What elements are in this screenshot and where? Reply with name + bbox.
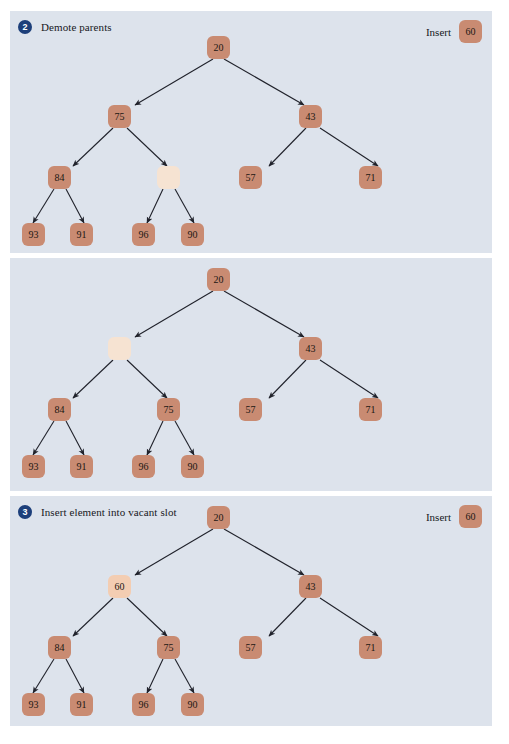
tree-node-leaf-4: 90 (181, 693, 204, 716)
tree-node-right-left: 57 (239, 166, 262, 189)
tree-node-leaf-1: 93 (22, 455, 45, 478)
tree-node-left-vacant (108, 337, 131, 360)
tree-node-right-left: 57 (239, 398, 262, 421)
tree-node-left-right: 75 (157, 636, 180, 659)
tree-node-left-left: 84 (48, 636, 71, 659)
tree-node-leaf-2: 91 (70, 223, 93, 246)
tree-node-leaf-3: 96 (132, 693, 155, 716)
tree-node-leaf-4: 90 (181, 223, 204, 246)
step-panel-3: 3 Insert element into vacant slot Insert… (10, 496, 492, 726)
tree-node-leaf-2: 91 (70, 455, 93, 478)
tree-node-leaf-2: 91 (70, 693, 93, 716)
tree-node-right: 43 (299, 105, 322, 128)
tree-node-root: 20 (207, 36, 230, 59)
tree-node-leaf-1: 93 (22, 223, 45, 246)
tree-node-left: 75 (108, 105, 131, 128)
tree-node-right: 43 (299, 337, 322, 360)
tree-node-leaf-4: 90 (181, 455, 204, 478)
tree-node-root: 20 (207, 506, 230, 529)
tree-node-left-left: 84 (48, 398, 71, 421)
step-panel-2-result: 20 43 84 75 57 71 93 91 96 90 (10, 258, 492, 491)
tree-node-leaf-3: 96 (132, 455, 155, 478)
tree-node-left-right-vacant (157, 166, 180, 189)
tree-node-leaf-3: 96 (132, 223, 155, 246)
tree-node-right-right: 71 (359, 398, 382, 421)
tree-node-leaf-1: 93 (22, 693, 45, 716)
tree-edges (10, 496, 492, 726)
tree-node-left-inserted: 60 (108, 575, 131, 598)
tree-node-right: 43 (299, 575, 322, 598)
tree-node-right-left: 57 (239, 636, 262, 659)
tree-node-right-right: 71 (359, 636, 382, 659)
tree-node-root: 20 (207, 268, 230, 291)
tree-node-right-right: 71 (359, 166, 382, 189)
tree-node-left-right: 75 (157, 398, 180, 421)
step-panel-2: 2 Demote parents Insert 60 20 75 43 84 5… (10, 11, 492, 253)
tree-node-left-left: 84 (48, 166, 71, 189)
tree-edges (10, 11, 492, 253)
